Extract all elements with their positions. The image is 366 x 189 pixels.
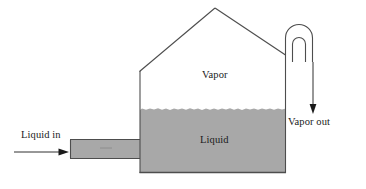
outlet-tube-inner-wall	[293, 38, 306, 63]
liquid-in-label: Liquid in	[21, 130, 61, 141]
vapor-out-label: Vapor out	[288, 117, 330, 128]
diagram-canvas	[0, 0, 366, 189]
roof-left-slope	[140, 8, 216, 72]
vapor-out-arrow-head	[310, 104, 317, 114]
roof-right-slope	[215, 8, 286, 55]
liquid-region-label: Liquid	[200, 135, 229, 146]
liquid-in-arrow-head	[59, 149, 70, 156]
inlet-pipe-liquid	[70, 140, 140, 158]
outlet-tube-outer-wall	[286, 25, 313, 63]
vapor-region-label: Vapor	[202, 70, 228, 81]
evaporator-diagram: Vapor Liquid Liquid in Vapor out	[0, 0, 366, 189]
